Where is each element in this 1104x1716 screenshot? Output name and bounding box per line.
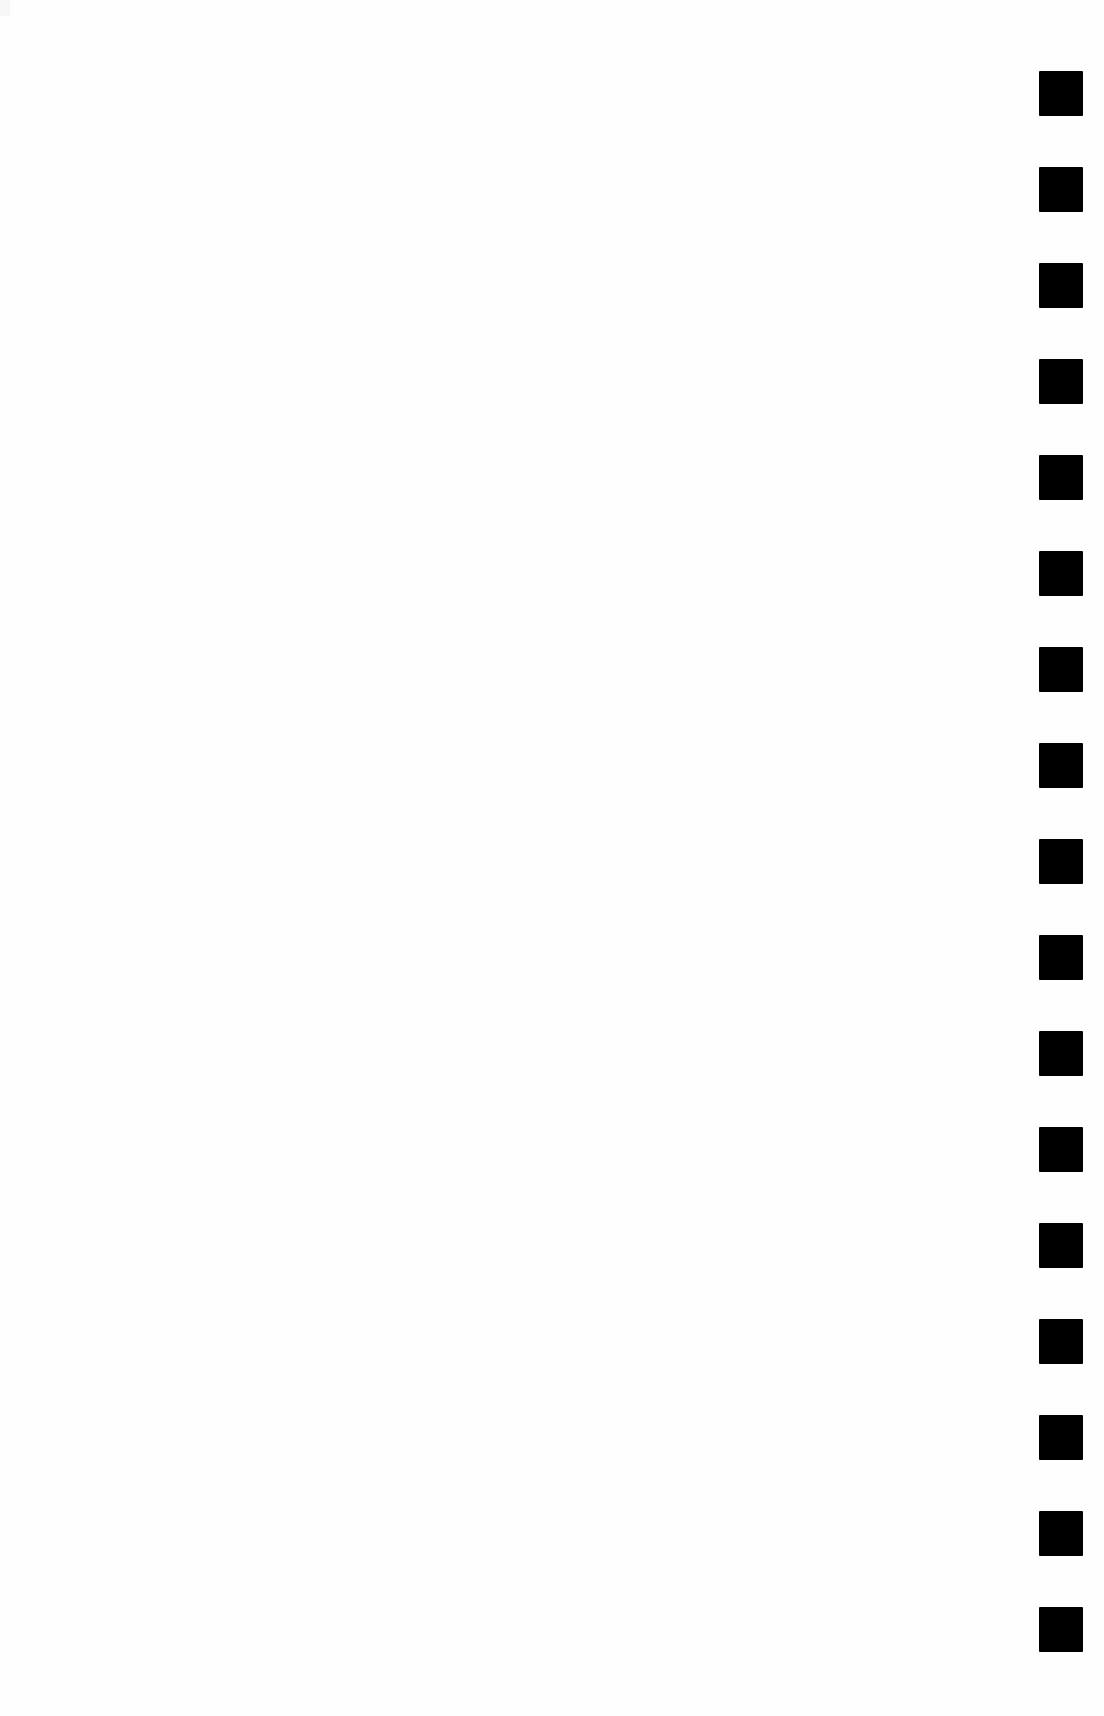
scan-artifact [0, 0, 10, 16]
edge-marker-square [1039, 455, 1083, 500]
edge-marker-square [1039, 263, 1083, 308]
edge-marker-square [1039, 743, 1083, 788]
edge-marker-square [1039, 935, 1083, 980]
edge-marker-square [1039, 359, 1083, 404]
edge-marker-square [1039, 1607, 1083, 1652]
edge-marker-square [1039, 1415, 1083, 1460]
edge-marker-square [1039, 1223, 1083, 1268]
edge-marker-square [1039, 839, 1083, 884]
edge-marker-square [1039, 551, 1083, 596]
blank-page [0, 0, 1104, 1716]
edge-marker-square [1039, 1031, 1083, 1076]
edge-marker-square [1039, 1127, 1083, 1172]
edge-marker-square [1039, 1319, 1083, 1364]
edge-marker-square [1039, 71, 1083, 116]
edge-marker-square [1039, 167, 1083, 212]
edge-marker-square [1039, 647, 1083, 692]
edge-marker-square [1039, 1511, 1083, 1556]
